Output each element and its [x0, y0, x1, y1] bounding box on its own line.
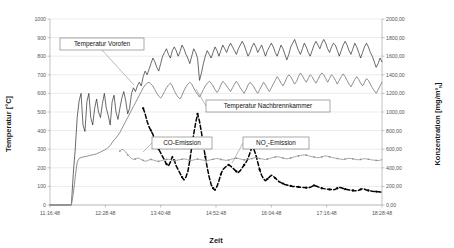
series-marker [150, 129, 152, 131]
y-axis-tick-label: 800 [37, 53, 46, 59]
x-axis-tick-label: 18:28:48 [372, 210, 392, 216]
series-marker [336, 187, 338, 189]
series-marker [150, 159, 152, 161]
series-label-text: Temperatur Vorofen [74, 40, 131, 48]
y2-axis-tick-label: 1200,00 [386, 90, 405, 96]
series-marker [127, 154, 129, 156]
y2-axis-tick-label: 800,00 [386, 128, 402, 134]
series-marker [297, 186, 299, 188]
y-axis-tick-label: 900 [37, 35, 46, 41]
y-axis-tick-label: 600 [37, 90, 46, 96]
series-marker [197, 158, 199, 160]
x-axis-tick-label: 12:28:48 [95, 210, 115, 216]
series-marker [204, 160, 206, 162]
y2-axis-tick-label: 1000,00 [386, 109, 405, 115]
y2-axis-tick-label: 200,00 [386, 183, 402, 189]
y2-axis-tick-label: 600,00 [386, 146, 402, 152]
series-marker [305, 154, 307, 156]
series-marker [267, 158, 269, 160]
series-marker [181, 158, 183, 160]
series-marker [298, 155, 300, 157]
series-marker [212, 158, 214, 160]
x-axis-tick-label: 16:04:48 [261, 210, 281, 216]
series-marker [165, 163, 167, 165]
x-axis-title: Zeit [209, 236, 223, 245]
series-marker [375, 160, 377, 162]
series-marker [196, 113, 198, 115]
series-marker [274, 177, 276, 179]
series-marker [359, 188, 361, 190]
series-marker [329, 156, 331, 158]
series-marker [328, 188, 330, 190]
y2-axis-title: Konzentration [mg/m³N] [433, 82, 443, 166]
series-marker [243, 159, 245, 161]
series-marker [259, 169, 261, 171]
series-marker [305, 187, 307, 189]
series-marker [181, 176, 183, 178]
series-label-text: CO-Emission [163, 139, 201, 146]
series-marker [352, 189, 354, 191]
y2-axis-tick-label: 0,00 [386, 202, 396, 208]
series-marker [290, 185, 292, 187]
y-axis-tick-label: 100 [37, 183, 46, 189]
y2-axis-tick-label: 400,00 [386, 165, 402, 171]
series-marker [321, 156, 323, 158]
series-marker [204, 155, 206, 157]
series-marker [337, 158, 339, 160]
y2-axis-tick-label: 1800,00 [386, 35, 405, 41]
y2-axis-tick-label: 2000,00 [386, 16, 405, 22]
y2-axis-title-main: Konzentration [mg/m³ [433, 88, 442, 166]
y-axis-tick-label: 300 [37, 146, 46, 152]
series-marker [220, 173, 222, 175]
y-axis-tick-label: 400 [37, 128, 46, 134]
series-marker [282, 182, 284, 184]
chart-container: 01002003004005006007008009001000 0,00200… [0, 0, 454, 248]
y-axis-tick-label: 1000 [34, 16, 46, 22]
series-marker [266, 178, 268, 180]
x-axis-tick-label: 13:40:48 [151, 210, 171, 216]
series-marker [313, 184, 315, 186]
series-label-text: Temperatur Nachbrennkammer [224, 102, 313, 110]
series-marker [166, 159, 168, 161]
series-marker [158, 160, 160, 162]
series-marker [212, 187, 214, 189]
series-marker [135, 158, 137, 160]
series-marker [367, 189, 369, 191]
y-axis-title: Temperatur [°C] [4, 95, 13, 152]
series-marker [321, 187, 323, 189]
y2-axis-tick-label: 1600,00 [386, 53, 405, 59]
emissions-temperature-line-chart: 01002003004005006007008009001000 0,00200… [0, 0, 454, 248]
series-marker [368, 158, 370, 160]
y-axis-tick-label: 700 [37, 72, 46, 78]
series-marker [313, 156, 315, 158]
series-marker [228, 159, 230, 161]
x-axis-tick-label: 17:16:48 [317, 210, 337, 216]
y2-axis-tick-label: 1400,00 [386, 72, 405, 78]
series-marker [220, 159, 222, 161]
x-axis-tick-label: 14:52:48 [206, 210, 226, 216]
series-marker [352, 158, 354, 160]
y-axis-tick-label: 0 [43, 202, 46, 208]
series-marker [344, 188, 346, 190]
series-marker [173, 160, 175, 162]
x-axis-tick-label: 11:16:48 [40, 210, 60, 216]
series-marker [119, 150, 121, 152]
series-marker [274, 156, 276, 158]
series-marker [251, 158, 253, 160]
series-marker [243, 164, 245, 166]
series-marker [259, 158, 261, 160]
series-marker [227, 164, 229, 166]
series-marker [236, 157, 238, 159]
series-marker [282, 157, 284, 159]
series-marker [344, 158, 346, 160]
y-axis-tick-label: 200 [37, 165, 46, 171]
series-marker [360, 159, 362, 161]
series-marker [189, 159, 191, 161]
series-marker [375, 190, 377, 192]
series-marker [235, 170, 237, 172]
series-marker [290, 157, 292, 159]
series-marker [142, 160, 144, 162]
y-axis-tick-label: 500 [37, 109, 46, 115]
series-marker [142, 107, 144, 109]
